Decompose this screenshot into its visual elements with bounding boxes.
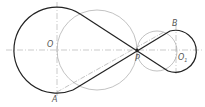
label-O1-sub: 1 <box>184 57 187 63</box>
construction-circle-PO1 <box>137 31 177 71</box>
label-O: O <box>47 40 53 49</box>
label-O1: O1 <box>178 53 187 63</box>
point-P-marker <box>136 49 139 52</box>
belt-tangent-diagram: O A B P O1 <box>0 0 205 107</box>
center-lines <box>6 2 202 98</box>
arc-small-circle <box>168 30 196 72</box>
construction-line <box>57 32 164 92</box>
tangent-line-1 <box>81 15 168 72</box>
tangent-line-2 <box>73 31 170 90</box>
label-A: A <box>51 95 57 104</box>
label-B: B <box>172 19 178 28</box>
label-P: P <box>135 54 140 63</box>
